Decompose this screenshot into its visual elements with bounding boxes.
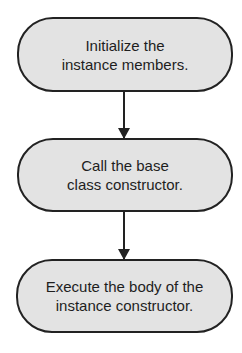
arrow-step2-to-step3	[123, 212, 125, 259]
step-label-line-1: Call the base	[67, 156, 183, 175]
step-call-base-class-constructor: Call the base class constructor.	[17, 138, 233, 212]
step-label-line-2: instance constructor.	[46, 296, 204, 315]
step-label-line-2: instance members.	[62, 55, 189, 74]
step-label-line-2: class constructor.	[67, 175, 183, 194]
step-initialize-instance-members: Initialize the instance members.	[17, 17, 233, 92]
step-label: Initialize the instance members.	[62, 36, 189, 74]
step-label-line-1: Execute the body of the	[46, 277, 204, 296]
arrow-step1-to-step2	[123, 92, 125, 138]
step-label: Call the base class constructor.	[67, 156, 183, 194]
step-execute-constructor-body: Execute the body of the instance constru…	[16, 259, 233, 333]
step-label-line-1: Initialize the	[62, 36, 189, 55]
step-label: Execute the body of the instance constru…	[46, 277, 204, 315]
